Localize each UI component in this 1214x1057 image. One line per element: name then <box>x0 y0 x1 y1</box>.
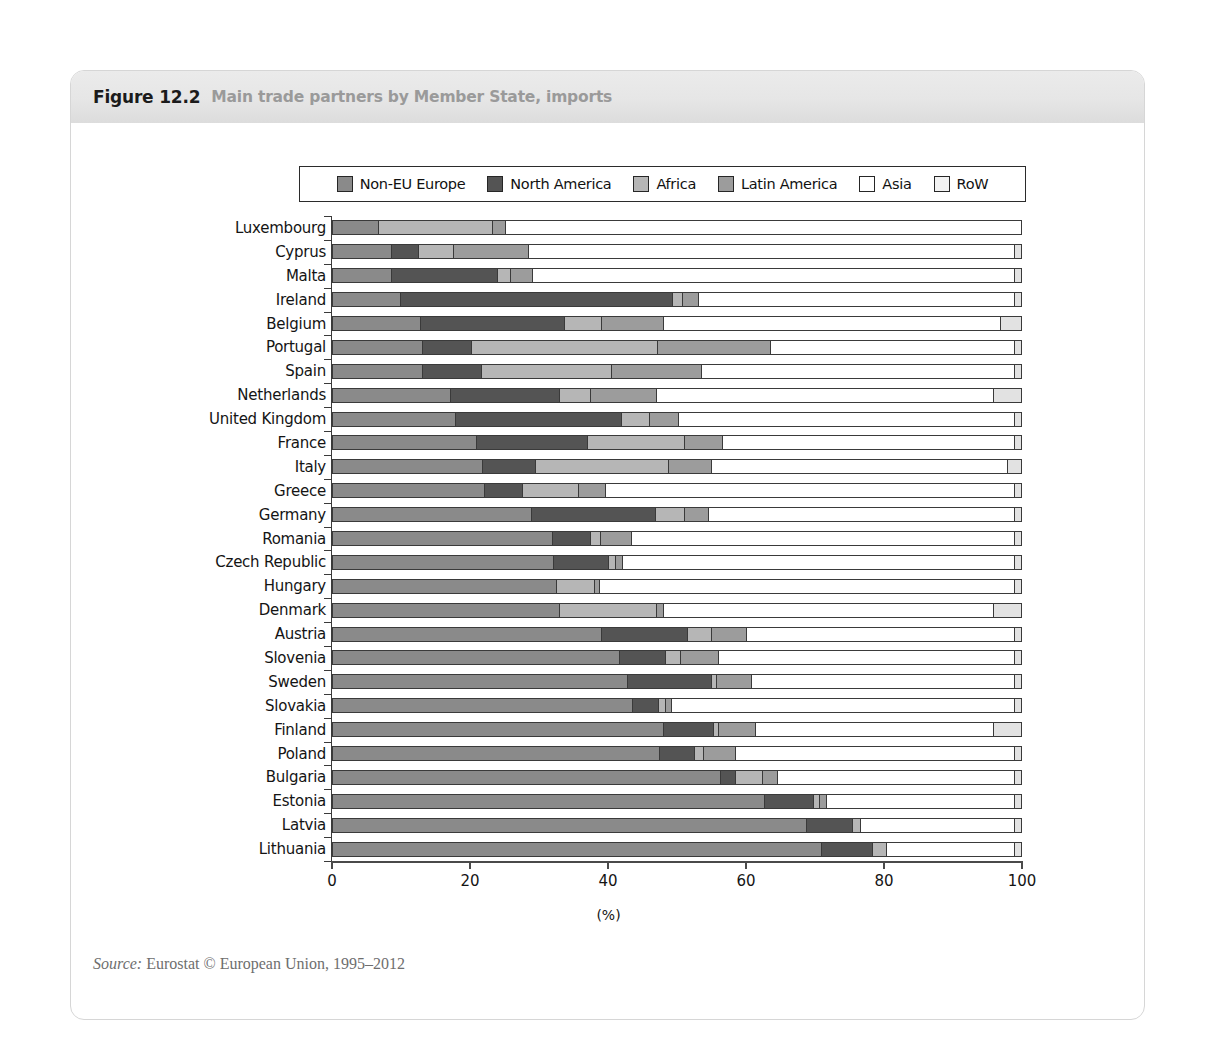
bar-segment <box>333 771 720 784</box>
bar-segment <box>993 723 1021 736</box>
bar-segment <box>333 245 391 258</box>
category-label: Cyprus <box>131 243 326 261</box>
bar-segment <box>601 317 664 330</box>
bar-segment <box>587 436 684 449</box>
bar-segment <box>1014 532 1021 545</box>
bar-row <box>332 722 1022 737</box>
bar-segment <box>564 317 600 330</box>
bar-segment <box>333 317 420 330</box>
bar-segment <box>806 819 852 832</box>
bar-segment <box>1014 771 1021 784</box>
bar-segment <box>764 795 813 808</box>
source-text: Eurostat © European Union, 1995–2012 <box>146 955 405 972</box>
bar-segment <box>720 771 735 784</box>
figure-container: Figure 12.2 Main trade partners by Membe… <box>70 70 1145 1020</box>
bar-segment <box>333 580 556 593</box>
y-axis-tick <box>324 455 332 456</box>
x-axis-tick-label: 0 <box>327 872 337 890</box>
bar-segment <box>559 604 656 617</box>
bar-segment <box>482 460 535 473</box>
bar-row <box>332 268 1022 283</box>
category-label: Netherlands <box>131 386 326 404</box>
bar-segment <box>528 245 1014 258</box>
category-label: Romania <box>131 530 326 548</box>
y-axis-tick <box>324 622 332 623</box>
category-label: Lithuania <box>131 840 326 858</box>
bar-series-group <box>332 216 1022 861</box>
y-axis-tick <box>324 598 332 599</box>
category-label: Slovenia <box>131 649 326 667</box>
bar-row <box>332 340 1022 355</box>
y-axis-tick <box>324 789 332 790</box>
bar-segment <box>659 747 694 760</box>
bar-segment <box>333 460 482 473</box>
category-axis-labels: LuxembourgCyprusMaltaIrelandBelgiumPortu… <box>131 216 326 861</box>
x-axis-tick <box>469 861 470 869</box>
bar-segment <box>663 723 713 736</box>
y-axis-tick <box>324 550 332 551</box>
bar-segment <box>481 365 611 378</box>
y-axis-tick <box>324 527 332 528</box>
plot-area: LuxembourgCyprusMaltaIrelandBelgiumPortu… <box>71 71 1145 1020</box>
bar-segment <box>1014 699 1021 712</box>
bar-row <box>332 364 1022 379</box>
bar-segment <box>333 436 476 449</box>
bar-segment <box>993 389 1021 402</box>
x-axis-line <box>332 861 1022 863</box>
bar-segment <box>1014 819 1021 832</box>
bar-segment <box>656 389 994 402</box>
bar-segment <box>333 795 764 808</box>
bar-segment <box>1014 341 1021 354</box>
bar-segment <box>535 460 668 473</box>
bar-segment <box>770 341 1014 354</box>
bar-segment <box>422 341 471 354</box>
bar-segment <box>631 532 1014 545</box>
y-axis-tick <box>324 216 332 217</box>
y-axis-tick <box>324 335 332 336</box>
bar-segment <box>1014 843 1021 856</box>
bar-segment <box>619 651 665 664</box>
bar-segment <box>746 628 1014 641</box>
bar-segment <box>333 604 559 617</box>
bar-row <box>332 388 1022 403</box>
bar-row <box>332 459 1022 474</box>
y-axis-tick <box>324 765 332 766</box>
bar-row <box>332 316 1022 331</box>
y-axis-tick <box>324 694 332 695</box>
bar-segment <box>450 389 559 402</box>
y-axis-tick <box>324 646 332 647</box>
x-axis-title: (%) <box>71 907 1145 923</box>
y-axis-tick <box>324 312 332 313</box>
bar-segment <box>1014 747 1021 760</box>
bar-segment <box>622 556 1014 569</box>
bar-row <box>332 292 1022 307</box>
bar-segment <box>632 699 659 712</box>
bar-segment <box>668 460 711 473</box>
x-axis-tick-label: 100 <box>1008 872 1037 890</box>
bar-segment <box>333 365 422 378</box>
bar-segment <box>422 365 480 378</box>
bar-segment <box>735 771 762 784</box>
bar-segment <box>556 580 594 593</box>
y-axis-tick <box>324 479 332 480</box>
category-label: Czech Republic <box>131 553 326 571</box>
bar-segment <box>762 771 777 784</box>
y-axis-tick <box>324 503 332 504</box>
bar-segment <box>656 604 664 617</box>
bar-segment <box>718 651 1014 664</box>
bar-segment <box>860 819 1014 832</box>
category-label: France <box>131 434 326 452</box>
bar-row <box>332 435 1022 450</box>
bar-segment <box>777 771 1014 784</box>
bar-segment <box>333 293 400 306</box>
bar-segment <box>672 293 682 306</box>
bar-segment <box>1014 436 1021 449</box>
bar-row <box>332 531 1022 546</box>
x-axis-tick <box>883 861 884 869</box>
bar-segment <box>627 675 711 688</box>
bar-row <box>332 794 1022 809</box>
bar-segment <box>590 532 600 545</box>
bar-segment <box>698 293 1014 306</box>
bar-segment <box>333 843 821 856</box>
category-label: Greece <box>131 482 326 500</box>
